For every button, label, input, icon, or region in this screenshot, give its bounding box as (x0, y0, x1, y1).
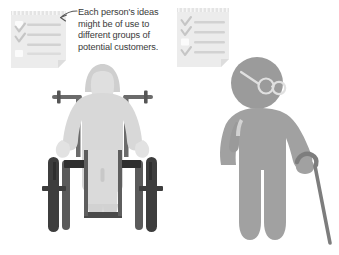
wheelchair-handle-grip-right (144, 91, 148, 104)
wheelchair-spoke-left (53, 162, 56, 180)
right-checklist-line-2 (194, 31, 225, 33)
cane-shaft (315, 166, 330, 243)
left-checklist-torn-edge (11, 11, 66, 15)
right-checklist-line-1 (194, 21, 225, 23)
wheelchair-handle-grip-left (57, 91, 61, 104)
left-checklist-line-4 (27, 53, 61, 55)
right-checklist-line-3 (194, 41, 225, 43)
left-checklist-line-1 (27, 24, 61, 26)
left-checklist-line-3 (27, 44, 61, 46)
left-checklist-checkbox-4[interactable] (15, 50, 23, 57)
wheelchair-axle-left (42, 186, 66, 191)
wheelchair-armrest-right (119, 160, 141, 168)
wheelchair-seat-post-right (118, 150, 122, 216)
right-checklist-fold (221, 59, 229, 67)
person-in-wheelchair (42, 64, 163, 232)
wheelchair-spoke-right (149, 162, 152, 180)
wheelchair-handle-right (123, 95, 153, 99)
wheelchair-axle-right (139, 186, 163, 191)
wheelchair-handrim-right (135, 160, 143, 230)
illustration-canvas: Each person's ideas might be of use to d… (0, 0, 339, 255)
wheelchair-handle-left (52, 95, 82, 99)
person-torso-seam (101, 168, 105, 182)
wheelchair-footplate (84, 212, 122, 218)
wheelchair-seat-post-left (84, 150, 88, 216)
person-with-cane (220, 57, 330, 243)
left-checklist (11, 11, 66, 68)
wheelchair-armrest-left (64, 160, 86, 168)
right-checklist-line-4 (194, 51, 225, 53)
wheelchair-handrim-left (62, 160, 70, 230)
person-face (91, 69, 114, 94)
left-checklist-fold (58, 60, 66, 68)
callout-text: Each person's ideas might be of use to d… (78, 7, 186, 53)
left-checklist-line-2 (27, 34, 61, 36)
